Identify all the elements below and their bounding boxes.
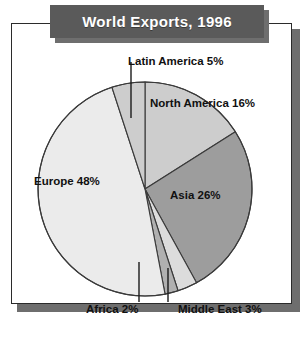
slice-label-asia: Asia 26% bbox=[170, 190, 221, 202]
slice-label-europe: Europe 48% bbox=[34, 176, 100, 188]
pie-chart: Latin America 5% North America 16% Europ… bbox=[0, 0, 308, 337]
slice-label-middle-east: Middle East 3% bbox=[178, 304, 262, 316]
chart-page: World Exports, 1996 Latin America 5% Nor… bbox=[0, 0, 308, 337]
pie-chart-svg bbox=[0, 0, 308, 337]
slice-label-north-america: North America 16% bbox=[150, 98, 255, 110]
slice-label-latin-america: Latin America 5% bbox=[128, 56, 223, 68]
slice-label-africa: Africa 2% bbox=[86, 304, 138, 316]
